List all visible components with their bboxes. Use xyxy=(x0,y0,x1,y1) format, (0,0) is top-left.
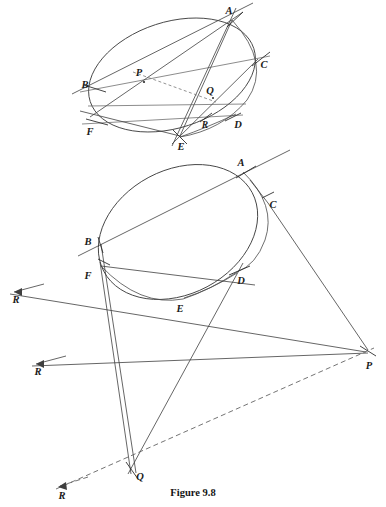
upper-label-R: R xyxy=(201,120,208,130)
lower-chord-CP xyxy=(268,203,368,350)
upper-label-Q: Q xyxy=(206,85,214,96)
upper-label-E: E xyxy=(176,141,184,152)
lower-chord-BQ xyxy=(101,244,136,473)
lower-figure-group: A B C D E F P Q R R R xyxy=(10,138,376,501)
lower-inner-conic-arc-ACD xyxy=(237,172,268,272)
lower-label-Q: Q xyxy=(136,471,144,482)
upper-point-Q xyxy=(212,97,214,99)
upper-chord-AB xyxy=(72,3,253,94)
lower-label-D: D xyxy=(236,275,245,286)
lower-chord-DQ xyxy=(128,263,243,474)
figure-container: A B C D E F P Q R xyxy=(0,0,386,507)
lower-pascal-line-1 xyxy=(10,294,366,352)
lower-pascal-line-2 xyxy=(32,353,368,366)
upper-inner-conic-arc xyxy=(180,20,257,137)
upper-point-P xyxy=(143,81,145,83)
upper-chord-BC xyxy=(80,56,270,92)
lower-chord-BA xyxy=(78,150,290,256)
upper-label-B: B xyxy=(80,79,88,90)
geometry-figure: A B C D E F P Q R xyxy=(0,0,386,507)
upper-label-C: C xyxy=(260,59,268,70)
lower-label-R-1: R xyxy=(11,294,19,305)
lower-label-R-3: R xyxy=(57,490,65,501)
upper-label-A: A xyxy=(224,5,232,16)
upper-label-P: P xyxy=(136,67,143,78)
lower-dashed-PQ-axis xyxy=(56,348,374,489)
upper-dashed-PR xyxy=(133,72,216,102)
lower-label-E: E xyxy=(175,303,183,314)
figure-caption: Figure 9.8 xyxy=(170,487,215,498)
upper-figure-group: A B C D E F P Q R xyxy=(72,0,270,152)
lower-label-R-2: R xyxy=(33,366,41,377)
lower-tick-C xyxy=(262,192,274,198)
lower-arrow-R-3 xyxy=(58,477,88,490)
lower-conic-ellipse xyxy=(75,138,282,326)
lower-inner-conic-arc-DEF xyxy=(101,266,237,300)
lower-label-F: F xyxy=(83,270,91,281)
lower-chord-CA xyxy=(250,180,268,203)
upper-label-F: F xyxy=(85,126,93,137)
lower-tick-P xyxy=(360,346,376,356)
lower-label-A: A xyxy=(236,157,244,168)
upper-chord-BQ xyxy=(88,104,246,106)
lower-tick-D xyxy=(229,266,250,275)
upper-chord-DE xyxy=(82,115,243,124)
upper-label-D: D xyxy=(233,119,242,130)
upper-chord-FA xyxy=(90,12,243,117)
lower-label-B: B xyxy=(83,236,91,247)
lower-label-P: P xyxy=(366,360,373,371)
lower-label-C: C xyxy=(269,199,277,210)
lower-chord-FQ xyxy=(100,262,131,474)
